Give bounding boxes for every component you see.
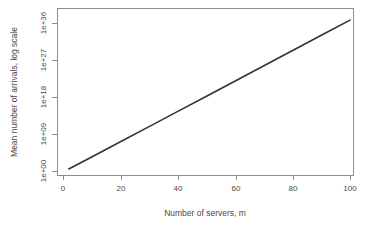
x-tick-label-100: 100: [343, 184, 357, 193]
y-axis-ticks: [52, 23, 57, 171]
x-axis-title: Number of servers, m: [164, 208, 246, 218]
x-tick-label-80: 80: [289, 184, 298, 193]
y-axis-tick-labels: 1e+36 1e+27 1e+18 1e+09 1e+00: [39, 11, 48, 182]
y-axis-title: Mean number of arrivals, log scale: [9, 27, 19, 157]
y-tick-label-1e36: 1e+36: [39, 11, 48, 34]
x-tick-label-20: 20: [117, 184, 126, 193]
plot-panel-border: [57, 8, 353, 175]
y-tick-label-1e27: 1e+27: [39, 48, 48, 71]
y-tick-label-1e00: 1e+00: [39, 159, 48, 182]
x-axis-tick-labels: 0 20 40 60 80 100: [61, 184, 357, 193]
line-chart: 1e+36 1e+27 1e+18 1e+09 1e+00 0 20 40 60…: [0, 0, 375, 229]
x-tick-label-0: 0: [61, 184, 66, 193]
chart-container: 1e+36 1e+27 1e+18 1e+09 1e+00 0 20 40 60…: [0, 0, 375, 229]
x-tick-label-40: 40: [174, 184, 183, 193]
y-tick-label-1e18: 1e+18: [39, 85, 48, 108]
series-line-mean-arrivals: [69, 20, 350, 169]
y-tick-label-1e09: 1e+09: [39, 122, 48, 145]
x-axis-ticks: [63, 175, 350, 180]
x-tick-label-60: 60: [232, 184, 241, 193]
